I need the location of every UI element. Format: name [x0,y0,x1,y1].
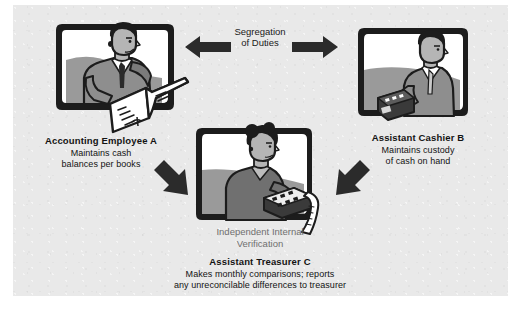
segregation-line-2: of Duties [208,37,312,48]
arrow-down-right [152,158,196,204]
person-with-ledger-book-illustration [52,18,192,136]
diagram-root: Accounting Employee A Maintains cash bal… [0,0,520,314]
node-accounting-employee-a [52,18,192,136]
node-c-desc-line-1: Makes monthly comparisons; reports [100,269,420,280]
node-b-desc-line-1: Maintains custody [338,145,498,156]
arrow-down-left [328,158,372,204]
label-segregation-of-duties: Segregation of Duties [208,26,312,49]
person-with-calculator-tape-illustration [190,122,330,240]
segregation-line-1: Segregation [208,26,312,37]
node-c-title: Assistant Treasurer C [100,256,420,267]
arrow-down-right-icon [152,158,196,200]
node-assistant-treasurer-c [190,122,330,240]
verification-line-1: Independent Internal [150,226,370,238]
node-c-desc-line-2: any unreconcilable differences to treasu… [100,280,420,291]
node-c-description: Makes monthly comparisons; reports any u… [100,269,420,290]
arrow-down-left-icon [328,158,372,200]
verification-line-2: Verification [150,238,370,250]
node-assistant-cashier-b [352,20,478,126]
node-b-title: Assistant Cashier B [338,132,498,143]
label-independent-internal-verification: Independent Internal Verification [150,226,370,250]
node-a-title: Accounting Employee A [16,135,186,146]
caption-assistant-treasurer-c: Assistant Treasurer C Makes monthly comp… [100,256,420,290]
person-at-cash-register-illustration [352,20,478,126]
